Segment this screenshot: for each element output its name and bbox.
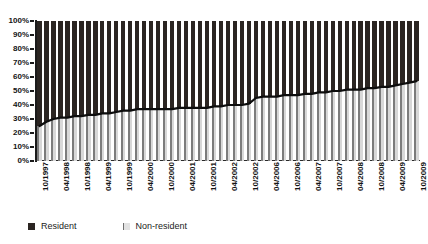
bar-segment-resident bbox=[163, 21, 167, 109]
bar-segment-non-resident bbox=[156, 109, 160, 161]
x-axis-labels: 10/199704/199810/199804/199910/199904/20… bbox=[36, 162, 420, 214]
bar-segment-resident bbox=[331, 21, 335, 91]
bar-segment-non-resident bbox=[149, 109, 153, 161]
stacked-bar bbox=[282, 21, 286, 161]
bar-segment-resident bbox=[170, 21, 174, 109]
stacked-bar bbox=[268, 21, 272, 161]
y-axis-tick-label: 10% bbox=[13, 143, 29, 151]
y-axis-tick-label: 40% bbox=[13, 101, 29, 109]
bar-segment-resident bbox=[393, 21, 397, 85]
bar-segment-resident bbox=[268, 21, 272, 97]
bar-segment-resident bbox=[72, 21, 76, 116]
legend-swatch-non-resident-icon bbox=[123, 223, 130, 230]
bar-segment-non-resident bbox=[184, 108, 188, 161]
bar-segment-resident bbox=[128, 21, 132, 111]
bar-segment-non-resident bbox=[310, 94, 314, 161]
bar-segment-non-resident bbox=[100, 113, 104, 161]
y-axis-tick-mark bbox=[30, 76, 34, 78]
stacked-bar bbox=[296, 21, 300, 161]
bar-segment-non-resident bbox=[324, 92, 328, 161]
bar-segment-non-resident bbox=[226, 105, 230, 161]
bar-segment-resident bbox=[184, 21, 188, 108]
bar-segment-non-resident bbox=[317, 92, 321, 161]
bar-segment-resident bbox=[365, 21, 369, 88]
bar-segment-resident bbox=[121, 21, 125, 111]
bar-segment-resident bbox=[324, 21, 328, 92]
stacked-bar bbox=[86, 21, 90, 161]
bar-segment-non-resident bbox=[163, 109, 167, 161]
plot-area bbox=[36, 21, 420, 161]
stacked-bar bbox=[212, 21, 216, 161]
y-axis-tick-mark bbox=[30, 132, 34, 134]
bar-segment-resident bbox=[149, 21, 153, 109]
stacked-bar bbox=[107, 21, 111, 161]
bar-segment-resident bbox=[317, 21, 321, 92]
bar-segment-non-resident bbox=[86, 115, 90, 161]
y-axis-tick-label: 90% bbox=[13, 31, 29, 39]
stacked-bar bbox=[414, 21, 418, 161]
bar-segment-non-resident bbox=[289, 95, 293, 161]
stacked-bar bbox=[205, 21, 209, 161]
stacked-bar bbox=[198, 21, 202, 161]
stacked-bar bbox=[65, 21, 69, 161]
stacked-bar bbox=[407, 21, 411, 161]
bar-segment-non-resident bbox=[142, 109, 146, 161]
stacked-bar bbox=[386, 21, 390, 161]
bar-segment-non-resident bbox=[44, 122, 48, 161]
stacked-bar bbox=[324, 21, 328, 161]
bar-segment-resident bbox=[58, 21, 62, 118]
bar-segment-non-resident bbox=[51, 119, 55, 161]
bar-segment-non-resident bbox=[261, 97, 265, 161]
x-axis-tick-label: 10/1999 bbox=[126, 162, 134, 191]
stacked-bar bbox=[51, 21, 55, 161]
bar-segment-resident bbox=[310, 21, 314, 94]
x-axis-tick-label: 04/1998 bbox=[63, 162, 71, 191]
stacked-bar bbox=[58, 21, 62, 161]
stacked-bar bbox=[163, 21, 167, 161]
bar-segment-non-resident bbox=[93, 115, 97, 161]
bar-segment-resident bbox=[379, 21, 383, 87]
stacked-bar bbox=[184, 21, 188, 161]
stacked-bar bbox=[121, 21, 125, 161]
stacked-bar bbox=[345, 21, 349, 161]
bar-segment-resident bbox=[219, 21, 223, 106]
x-axis-tick-label: 04/2007 bbox=[315, 162, 323, 191]
stacked-bar bbox=[170, 21, 174, 161]
x-axis-tick-label: 04/2002 bbox=[231, 162, 239, 191]
bar-segment-non-resident bbox=[352, 90, 356, 161]
stacked-bar bbox=[114, 21, 118, 161]
bar-segment-non-resident bbox=[400, 84, 404, 161]
chart-legend: Resident Non-resident bbox=[28, 221, 187, 231]
stacked-bar bbox=[310, 21, 314, 161]
bar-segment-non-resident bbox=[254, 98, 258, 161]
stacked-bar bbox=[100, 21, 104, 161]
y-axis-tick-mark bbox=[30, 118, 34, 120]
x-axis-tick-label: 04/1999 bbox=[105, 162, 113, 191]
legend-item-resident: Resident bbox=[28, 221, 77, 231]
bar-segment-non-resident bbox=[393, 85, 397, 161]
bar-segment-resident bbox=[352, 21, 356, 90]
y-axis-tick-label: 100% bbox=[9, 17, 29, 25]
y-axis-tick-label: 70% bbox=[13, 59, 29, 67]
stacked-bar bbox=[72, 21, 76, 161]
bar-segment-non-resident bbox=[268, 97, 272, 161]
bar-segment-resident bbox=[289, 21, 293, 95]
bar-segment-non-resident bbox=[386, 87, 390, 161]
y-axis-tick-mark bbox=[30, 160, 34, 162]
stacked-bar bbox=[93, 21, 97, 161]
bar-segment-resident bbox=[135, 21, 139, 109]
bar-segment-non-resident bbox=[212, 106, 216, 161]
stacked-bar bbox=[352, 21, 356, 161]
x-axis-tick-label: 10/2006 bbox=[294, 162, 302, 191]
x-axis-tick-label: 04/2000 bbox=[147, 162, 155, 191]
bar-segment-resident bbox=[51, 21, 55, 119]
stacked-bar bbox=[37, 21, 41, 161]
bar-segment-non-resident bbox=[303, 94, 307, 161]
y-axis-tick-label: 0% bbox=[17, 157, 29, 165]
y-axis-labels: 0%10%20%30%40%50%60%70%80%90%100% bbox=[0, 0, 34, 200]
bar-segment-resident bbox=[44, 21, 48, 122]
bar-segment-resident bbox=[345, 21, 349, 90]
stacked-bar bbox=[149, 21, 153, 161]
bar-segment-non-resident bbox=[414, 81, 418, 161]
x-axis-tick-label: 04/2009 bbox=[399, 162, 407, 191]
